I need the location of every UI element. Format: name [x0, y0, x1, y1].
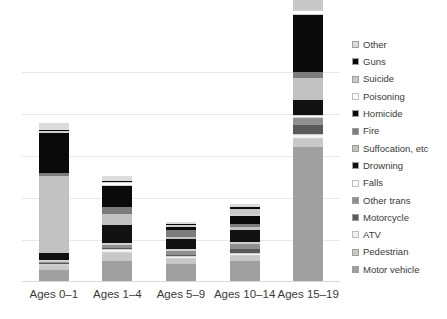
legend-item[interactable]: Suicide — [352, 71, 447, 88]
bar-segment[interactable] — [166, 239, 196, 249]
legend-item[interactable]: Other trans — [352, 192, 447, 209]
bar-segment[interactable] — [39, 176, 69, 253]
legend-label: Motorcycle — [363, 213, 409, 223]
x-axis-label: Ages 5–9 — [149, 288, 213, 300]
bar-segment[interactable] — [39, 270, 69, 281]
bar-segment[interactable] — [39, 123, 69, 130]
legend-item[interactable]: Falls — [352, 174, 447, 191]
legend-item[interactable]: Pedestrian — [352, 244, 447, 261]
bar-stack[interactable] — [102, 176, 132, 281]
plot-area — [22, 30, 340, 282]
legend-swatch-icon — [352, 214, 359, 221]
legend-label: Motor vehicle — [363, 265, 420, 275]
legend-swatch-icon — [352, 58, 359, 65]
legend-swatch-icon — [352, 41, 359, 48]
legend-item[interactable]: Other — [352, 36, 447, 53]
legend-swatch-icon — [352, 266, 359, 273]
stacked-bar-chart: Ages 0–1Ages 1–4Ages 5–9Ages 10–14Ages 1… — [0, 0, 447, 319]
x-axis-label: Ages 15–19 — [276, 288, 340, 300]
legend-swatch-icon — [352, 231, 359, 238]
bar-segment[interactable] — [230, 230, 260, 241]
legend-label: Homicide — [363, 109, 403, 119]
bar-segment[interactable] — [39, 133, 69, 173]
x-axis-label: Ages 0–1 — [22, 288, 86, 300]
legend-swatch-icon — [352, 110, 359, 117]
bar-segment[interactable] — [293, 118, 323, 125]
bar-stack[interactable] — [39, 123, 69, 281]
bar-segment[interactable] — [293, 78, 323, 101]
bar-segment[interactable] — [293, 139, 323, 146]
bar-stack[interactable] — [293, 0, 323, 281]
legend-label: Other trans — [363, 196, 411, 206]
legend-label: Drowning — [363, 161, 403, 171]
bar-segment[interactable] — [293, 147, 323, 281]
legend-item[interactable]: Homicide — [352, 105, 447, 122]
bar-segment[interactable] — [102, 186, 132, 207]
legend-item[interactable]: Fire — [352, 122, 447, 139]
legend-label: ATV — [363, 230, 381, 240]
legend-item[interactable]: Motor vehicle — [352, 261, 447, 278]
bar-segment[interactable] — [293, 100, 323, 114]
bar-segment[interactable] — [230, 261, 260, 281]
legend-label: Guns — [363, 57, 386, 67]
legend-label: Suffocation, etc — [363, 144, 428, 154]
bar-segment[interactable] — [166, 264, 196, 281]
legend-swatch-icon — [352, 93, 359, 100]
legend-item[interactable]: Suffocation, etc — [352, 140, 447, 157]
legend-item[interactable]: Motorcycle — [352, 209, 447, 226]
legend-item[interactable]: Poisoning — [352, 88, 447, 105]
bar-segment[interactable] — [166, 230, 196, 237]
legend-swatch-icon — [352, 145, 359, 152]
bar-segment[interactable] — [102, 261, 132, 281]
bar-segment[interactable] — [102, 225, 132, 243]
x-axis-labels: Ages 0–1Ages 1–4Ages 5–9Ages 10–14Ages 1… — [22, 288, 340, 312]
legend-label: Fire — [363, 126, 379, 136]
legend-label: Poisoning — [363, 92, 405, 102]
bar-segment[interactable] — [230, 216, 260, 223]
legend-swatch-icon — [352, 162, 359, 169]
bar-segment[interactable] — [293, 15, 323, 73]
legend-swatch-icon — [352, 76, 359, 83]
legend-item[interactable]: ATV — [352, 226, 447, 243]
legend-label: Pedestrian — [363, 247, 408, 257]
legend-label: Falls — [363, 178, 383, 188]
bar-segment[interactable] — [293, 125, 323, 134]
x-axis-label: Ages 10–14 — [213, 288, 277, 300]
bar-segment[interactable] — [102, 214, 132, 225]
bar-segment[interactable] — [39, 253, 69, 260]
legend-item[interactable]: Drowning — [352, 157, 447, 174]
bar-stack[interactable] — [230, 204, 260, 281]
legend-swatch-icon — [352, 197, 359, 204]
bar-segment[interactable] — [102, 253, 132, 261]
legend-item[interactable]: Guns — [352, 53, 447, 70]
x-axis-label: Ages 1–4 — [86, 288, 150, 300]
legend-swatch-icon — [352, 180, 359, 187]
legend-swatch-icon — [352, 249, 359, 256]
bars-layer — [22, 30, 340, 282]
x-axis-line — [22, 281, 340, 282]
bar-segment[interactable] — [293, 0, 323, 10]
bar-stack[interactable] — [166, 222, 196, 281]
bar-segment[interactable] — [102, 207, 132, 214]
legend-swatch-icon — [352, 128, 359, 135]
legend-label: Suicide — [363, 74, 394, 84]
legend-label: Other — [363, 40, 387, 50]
chart-legend: OtherGunsSuicidePoisoningHomicideFireSuf… — [352, 36, 447, 278]
